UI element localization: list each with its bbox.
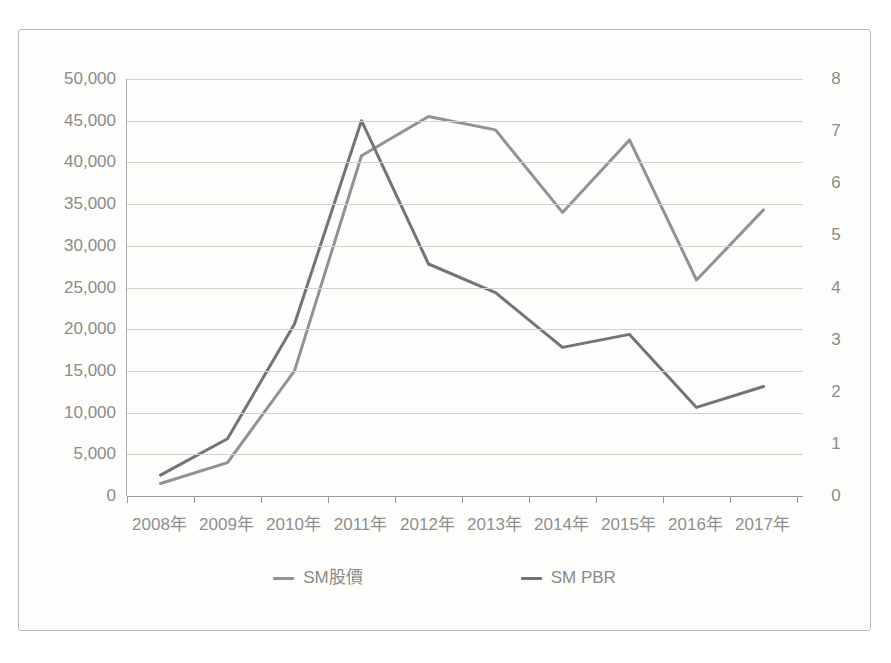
series-line-sm-price xyxy=(161,117,764,484)
x-axis-tick xyxy=(328,496,329,503)
plot-area xyxy=(126,79,797,496)
x-axis-label: 2015年 xyxy=(595,516,662,534)
left-axis-tick-label: 45,000 xyxy=(19,112,116,130)
sm-price-line-marker xyxy=(273,577,294,580)
x-axis-label: 2012年 xyxy=(394,516,461,534)
right-axis-tick-label: 1 xyxy=(815,435,857,453)
x-axis-tick xyxy=(127,496,128,503)
legend: SM股價 SM PBR xyxy=(19,568,870,588)
x-axis-label: 2010年 xyxy=(260,516,327,534)
gridline xyxy=(127,79,803,80)
left-axis-tick-label: 30,000 xyxy=(19,237,116,255)
right-axis-tick-label: 8 xyxy=(815,70,857,88)
left-axis-tick-label: 5,000 xyxy=(19,445,116,463)
x-axis-tick xyxy=(529,496,530,503)
x-axis-tick xyxy=(395,496,396,503)
right-axis-tick-label: 3 xyxy=(815,331,857,349)
left-axis-tick-label: 50,000 xyxy=(19,70,116,88)
x-axis-tick xyxy=(261,496,262,503)
x-axis-label: 2009年 xyxy=(193,516,260,534)
legend-label-sm-price: SM股價 xyxy=(303,568,363,588)
gridline xyxy=(127,288,803,289)
x-axis-label: 2017年 xyxy=(729,516,796,534)
right-axis-tick-label: 5 xyxy=(815,226,857,244)
right-axis-tick-label: 4 xyxy=(815,279,857,297)
x-axis-label: 2014年 xyxy=(528,516,595,534)
right-axis-tick-label: 6 xyxy=(815,174,857,192)
x-axis-label: 2008年 xyxy=(126,516,193,534)
gridline xyxy=(127,371,803,372)
right-axis-tick-label: 7 xyxy=(815,122,857,140)
gridline xyxy=(127,162,803,163)
left-axis-tick-label: 10,000 xyxy=(19,404,116,422)
gridline xyxy=(127,246,803,247)
x-axis-tick xyxy=(797,496,798,503)
x-axis-tick xyxy=(730,496,731,503)
x-axis-label: 2016年 xyxy=(662,516,729,534)
left-axis-tick-label: 35,000 xyxy=(19,195,116,213)
gridline xyxy=(127,121,803,122)
scanned-page: 05,00010,00015,00020,00025,00030,00035,0… xyxy=(0,0,891,663)
gridline xyxy=(127,329,803,330)
right-axis-tick-label: 2 xyxy=(815,383,857,401)
x-axis-label: 2011年 xyxy=(327,516,394,534)
x-axis-label: 2013年 xyxy=(461,516,528,534)
gridline xyxy=(127,454,803,455)
left-axis-tick-label: 40,000 xyxy=(19,153,116,171)
x-axis-tick xyxy=(663,496,664,503)
right-axis-tick-label: 0 xyxy=(815,487,857,505)
legend-item-sm-price: SM股價 xyxy=(273,568,363,588)
x-axis-tick xyxy=(596,496,597,503)
sm-pbr-line-marker xyxy=(521,577,542,580)
x-axis-tick xyxy=(462,496,463,503)
x-axis-line xyxy=(127,496,803,497)
chart-figure: 05,00010,00015,00020,00025,00030,00035,0… xyxy=(18,29,871,631)
legend-label-sm-pbr: SM PBR xyxy=(551,568,616,588)
legend-item-sm-pbr: SM PBR xyxy=(521,568,616,588)
left-axis-tick-label: 0 xyxy=(19,487,116,505)
left-axis-tick-label: 20,000 xyxy=(19,320,116,338)
left-axis-tick-label: 15,000 xyxy=(19,362,116,380)
x-axis-tick xyxy=(194,496,195,503)
series-line-sm-pbr xyxy=(161,121,764,475)
left-axis-tick-label: 25,000 xyxy=(19,279,116,297)
gridline xyxy=(127,204,803,205)
gridline xyxy=(127,413,803,414)
